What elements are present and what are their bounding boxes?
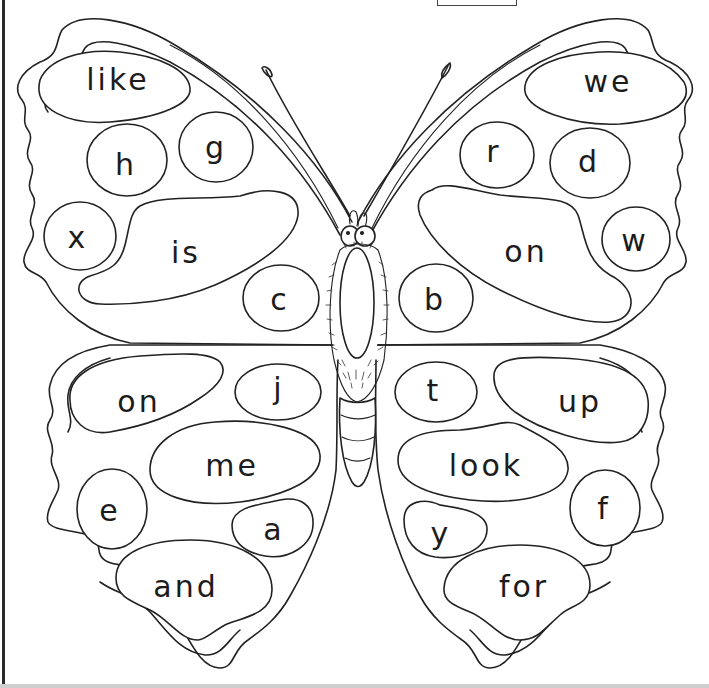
spot-label-tr5: on	[504, 237, 547, 267]
butterfly-illustration	[0, 0, 709, 688]
spot-label-br2: up	[558, 387, 602, 417]
spot-label-tr1: we	[584, 67, 633, 97]
worksheet-page: likehgxiscwerdwonbonjmeeaandtuplookfyfor	[0, 0, 709, 688]
spot-label-tl6: c	[270, 285, 290, 315]
spot-label-tl2: h	[115, 150, 137, 180]
bottom-left-wing	[47, 345, 338, 668]
spot-label-tl5: is	[171, 238, 201, 268]
spot-label-tl1: like	[86, 65, 149, 95]
spot-label-bl4: e	[99, 496, 120, 526]
top-left-wing	[18, 19, 352, 345]
spot-label-bl2: j	[273, 374, 284, 404]
spot-label-br4: f	[597, 494, 611, 524]
spot-label-bl3: me	[205, 451, 259, 481]
spot-label-br6: for	[499, 572, 549, 602]
spot-label-tl3: g	[205, 133, 227, 163]
spot-label-bl1: on	[117, 387, 160, 417]
antennae	[262, 63, 450, 216]
butterfly-body	[326, 211, 389, 487]
bottom-right-wing	[376, 345, 666, 668]
spot-label-br5: y	[431, 519, 452, 549]
spot-label-tr6: b	[424, 285, 446, 315]
top-right-wing	[358, 19, 692, 345]
spot-label-br1: t	[427, 376, 442, 406]
spot-label-br3: look	[449, 451, 523, 481]
spot-label-bl6: and	[153, 572, 218, 602]
spot-label-tl4: x	[68, 223, 89, 253]
spot-label-tr3: d	[578, 147, 600, 177]
spot-label-bl5: a	[263, 515, 284, 545]
spot-label-tr2: r	[486, 137, 501, 167]
spot-label-tr4: w	[621, 226, 649, 256]
